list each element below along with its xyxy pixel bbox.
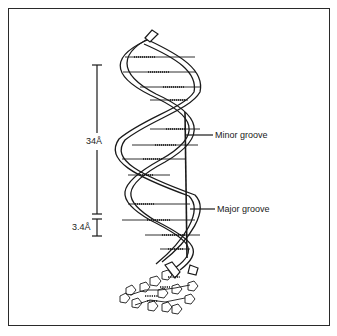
major-groove-label: Major groove [217,204,270,214]
rise-label: 3.4Å [72,222,91,232]
minor-groove-label: Minor groove [215,130,268,140]
pitch-label: 34Å [86,136,102,146]
dna-helix-drawing [0,0,337,336]
